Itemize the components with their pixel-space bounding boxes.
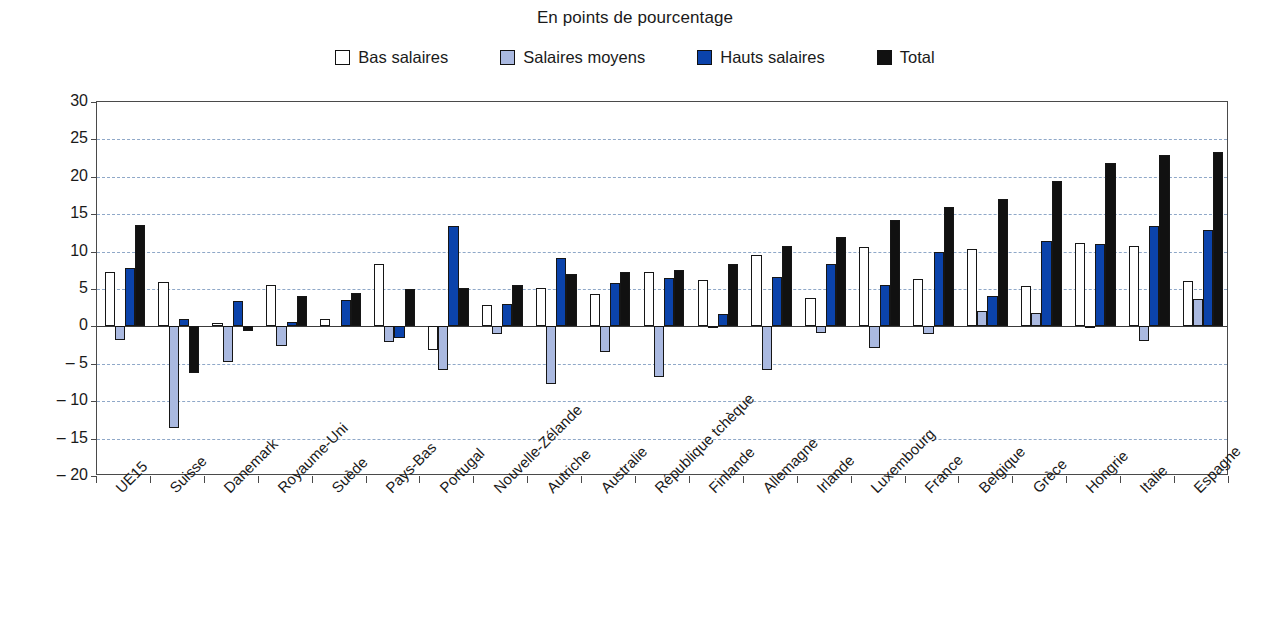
gridline: [97, 177, 1227, 178]
bar: [698, 280, 708, 326]
bar: [944, 207, 954, 327]
x-tick-mark: [1120, 476, 1121, 483]
gridline: [97, 139, 1227, 140]
bar: [923, 326, 933, 333]
legend-label: Total: [900, 48, 935, 67]
bar: [1213, 152, 1223, 326]
bar: [233, 301, 243, 326]
bar: [590, 294, 600, 326]
y-tick-mark: [91, 439, 97, 440]
bar: [610, 283, 620, 326]
bar: [482, 305, 492, 326]
y-tick-label: – 20: [28, 466, 88, 484]
bar: [1129, 246, 1139, 327]
bar: [762, 326, 772, 369]
y-tick-mark: [91, 252, 97, 253]
y-tick-label: 20: [28, 167, 88, 185]
bar: [1021, 286, 1031, 326]
bar: [772, 277, 782, 326]
bar: [1183, 281, 1193, 327]
bar: [1149, 226, 1159, 326]
bar: [1159, 155, 1169, 326]
bar: [169, 326, 179, 428]
bar: [189, 326, 199, 372]
bar: [405, 289, 415, 326]
y-tick-mark: [91, 326, 97, 327]
legend-item-2[interactable]: Hauts salaires: [697, 48, 825, 67]
x-tick-mark: [1066, 476, 1067, 483]
chart-container: En points de pourcentage Bas salairesSal…: [0, 0, 1270, 643]
x-tick-mark: [743, 476, 744, 483]
legend-item-1[interactable]: Salaires moyens: [500, 48, 645, 67]
y-tick-label: 0: [28, 316, 88, 334]
bar: [718, 314, 728, 326]
y-tick-mark: [91, 289, 97, 290]
legend-item-0[interactable]: Bas salaires: [335, 48, 448, 67]
bar: [1041, 241, 1051, 326]
bar: [869, 326, 879, 348]
x-tick-mark: [96, 476, 97, 483]
bar: [135, 225, 145, 326]
bar: [1193, 299, 1203, 326]
bar: [859, 247, 869, 326]
bar: [890, 220, 900, 326]
y-tick-label: 5: [28, 279, 88, 297]
bar: [512, 285, 522, 326]
bar: [556, 258, 566, 327]
y-tick-mark: [91, 139, 97, 140]
bar: [179, 319, 189, 326]
bar: [502, 304, 512, 326]
x-tick-mark: [1174, 476, 1175, 483]
bar: [1203, 230, 1213, 326]
bar: [674, 270, 684, 326]
legend-swatch-icon: [697, 50, 712, 65]
x-tick-mark: [905, 476, 906, 483]
x-tick-mark: [1012, 476, 1013, 483]
bar: [816, 326, 826, 333]
legend-label: Hauts salaires: [720, 48, 825, 67]
y-tick-label: 30: [28, 92, 88, 110]
chart-title: En points de pourcentage: [0, 8, 1270, 28]
y-tick-label: – 10: [28, 391, 88, 409]
bar: [212, 323, 222, 327]
x-tick-mark: [1228, 476, 1229, 483]
bar: [1085, 326, 1095, 328]
bar: [1139, 326, 1149, 340]
bar: [115, 326, 125, 339]
bar: [492, 326, 502, 333]
bar: [654, 326, 664, 376]
y-tick-label: 25: [28, 129, 88, 147]
x-tick-mark: [312, 476, 313, 483]
x-tick-mark: [258, 476, 259, 483]
bar: [664, 278, 674, 327]
bar: [1031, 313, 1041, 326]
bar: [728, 264, 738, 326]
bar: [384, 326, 394, 342]
x-tick-mark: [581, 476, 582, 483]
bar: [351, 293, 361, 327]
legend-swatch-icon: [500, 50, 515, 65]
plot-area: [96, 101, 1228, 475]
legend-label: Salaires moyens: [523, 48, 645, 67]
bar: [459, 288, 469, 327]
y-tick-label: – 15: [28, 429, 88, 447]
y-tick-label: 10: [28, 242, 88, 260]
bar: [428, 326, 438, 350]
bar: [1095, 244, 1105, 326]
x-axis-labels: UE15SuisseDanemarkRoyaume-UniSuèdePays-B…: [96, 476, 1228, 641]
bar: [287, 322, 297, 326]
x-tick-mark: [797, 476, 798, 483]
bar: [566, 274, 576, 326]
x-tick-mark: [851, 476, 852, 483]
legend-item-3[interactable]: Total: [877, 48, 935, 67]
x-tick-mark: [150, 476, 151, 483]
bar: [374, 264, 384, 326]
y-tick-mark: [91, 401, 97, 402]
x-tick-mark: [689, 476, 690, 483]
bar: [105, 272, 115, 327]
bar: [394, 326, 404, 338]
bar: [297, 296, 307, 326]
x-tick-mark: [366, 476, 367, 483]
y-tick-label: 15: [28, 204, 88, 222]
bar: [998, 199, 1008, 326]
